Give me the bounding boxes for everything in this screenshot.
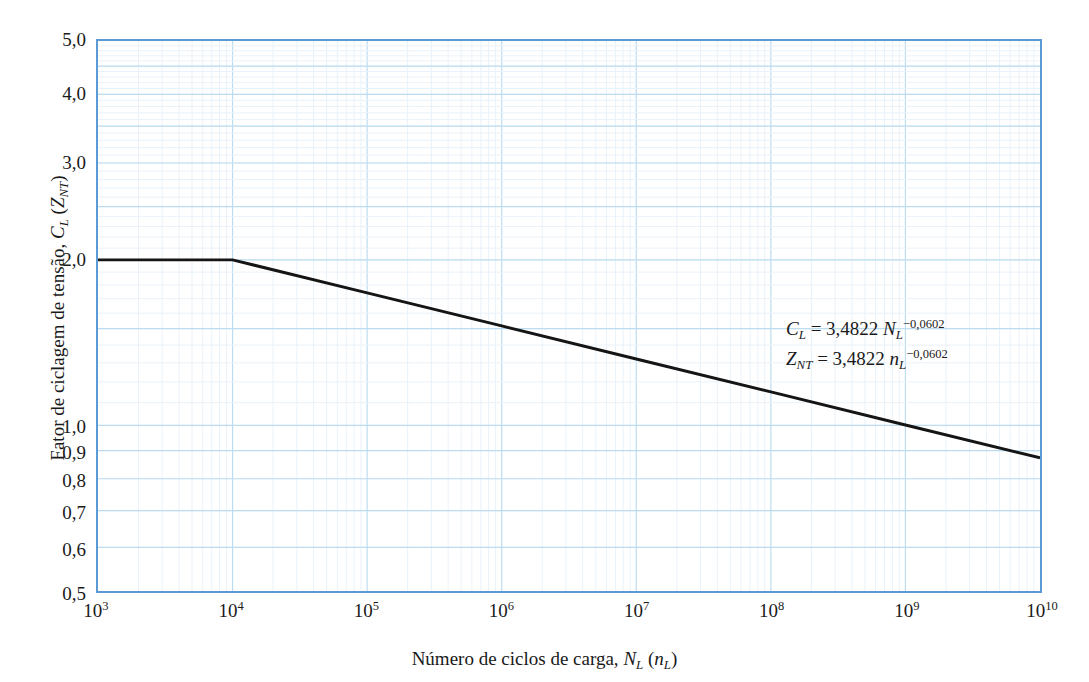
x-tick-label: 103: [83, 601, 108, 620]
x-tick-label: 1010: [1026, 601, 1058, 620]
equation-line-2: ZNT = 3,4822 nL−0,0602: [786, 344, 948, 374]
x-tick-label: 109: [894, 601, 919, 620]
x-tick-label: 105: [354, 601, 379, 620]
y-axis-title: Fator de ciclagem de tensão, CL (ZNT): [47, 38, 69, 598]
chart-figure: 5,04,03,02,01,00,90,80,70,60,5 103104105…: [0, 0, 1089, 682]
x-tick-label: 107: [624, 601, 649, 620]
x-tick-label: 108: [759, 601, 784, 620]
x-tick-label: 104: [219, 601, 244, 620]
x-axis-tick-labels: 1031041051061071081091010: [0, 601, 1089, 635]
x-tick-label: 106: [489, 601, 514, 620]
equation-line-1: CL = 3,4822 NL−0,0602: [786, 314, 948, 344]
y-axis-tick-labels: 5,04,03,02,01,00,90,80,70,60,5: [0, 0, 86, 682]
equation-annotation: CL = 3,4822 NL−0,0602 ZNT = 3,4822 nL−0,…: [786, 314, 948, 374]
x-axis-title: Número de ciclos de carga, NL (nL): [0, 648, 1089, 670]
